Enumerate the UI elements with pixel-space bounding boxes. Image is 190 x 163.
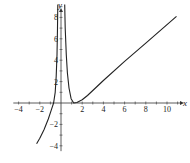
y-axis-label: y xyxy=(57,0,62,10)
x-axis-label: x xyxy=(182,98,187,108)
x-tick-label: −2 xyxy=(36,105,45,114)
x-tick-label: 6 xyxy=(123,105,127,114)
x-tick-label: 4 xyxy=(101,105,105,114)
axes xyxy=(13,8,184,151)
x-tick-label: 10 xyxy=(163,105,171,114)
x-tick-label: −4 xyxy=(14,105,23,114)
x-tick-label: 2 xyxy=(80,105,84,114)
function-plot: −4−2246810−4−22468 x y xyxy=(0,0,190,163)
ticks: −4−2246810−4−22468 xyxy=(14,7,177,151)
y-tick-label: −4 xyxy=(49,142,58,151)
curve-right-branch xyxy=(65,5,177,103)
x-tick-label: 8 xyxy=(144,105,148,114)
y-tick-label: −2 xyxy=(49,120,58,129)
